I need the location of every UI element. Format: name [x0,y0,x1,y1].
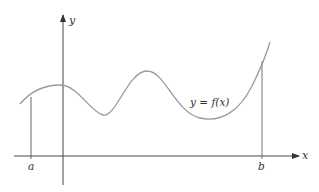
x-axis-label: x [302,149,309,162]
bound-label-a: a [28,160,34,172]
function-graph: y x a b y = f(x) [0,0,319,192]
bound-label-b: b [258,160,265,172]
y-axis-label: y [68,14,76,27]
curve-label: y = f(x) [189,96,229,108]
function-curve [20,42,270,119]
